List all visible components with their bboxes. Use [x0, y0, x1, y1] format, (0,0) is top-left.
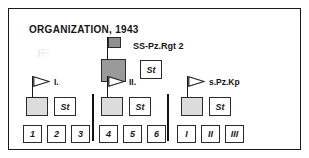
battalion-3-label: s.Pz.Kp	[209, 77, 240, 87]
company-box: III	[225, 125, 244, 143]
organization-chart: ORGANIZATION, 1943 SS-Pz.Rgt 2 St I.	[0, 0, 309, 158]
group-battalion-3: s.Pz.Kp St I II III	[9, 9, 300, 149]
company-box: II	[201, 125, 220, 143]
battalion-3-staff-box: St	[209, 97, 231, 116]
battalion-3-pennant-icon	[188, 76, 205, 87]
chart-frame: ORGANIZATION, 1943 SS-Pz.Rgt 2 St I.	[8, 8, 301, 150]
company-box: I	[177, 125, 196, 143]
battalion-3-box	[181, 97, 203, 116]
